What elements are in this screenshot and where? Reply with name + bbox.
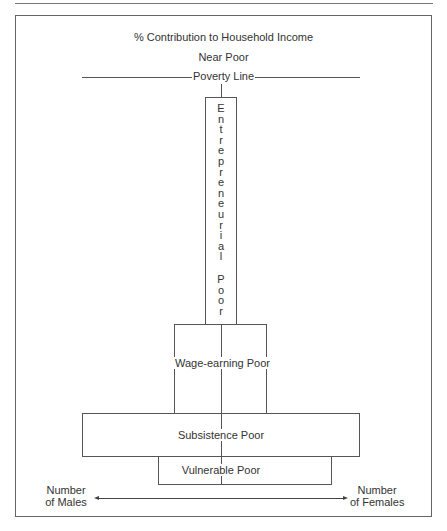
axis-label-females-line2: of Females xyxy=(350,496,404,508)
letter: u xyxy=(218,209,224,220)
vulnerable-poor-label: Vulnerable Poor xyxy=(181,464,261,476)
tier-wage-earning-poor xyxy=(174,324,267,414)
diagram-title: % Contribution to Household Income xyxy=(0,31,447,43)
wage-earning-poor-label: Wage-earning Poor xyxy=(174,357,271,369)
arrow-right-icon xyxy=(343,496,348,500)
entrepreneurial-poor-label: E n t r e p r e n e u r i a l P o o r xyxy=(205,103,237,316)
axis-label-females-line1: Number xyxy=(350,484,404,496)
poverty-line-label-wrap: Poverty Line xyxy=(0,70,447,82)
letter: r xyxy=(219,306,223,317)
vulnerable-poor-label-wrap: Vulnerable Poor xyxy=(158,464,284,476)
subsistence-poor-label-wrap: Subsistence Poor xyxy=(82,429,360,441)
near-poor-label: Near Poor xyxy=(0,51,447,63)
poverty-line-label: Poverty Line xyxy=(192,70,255,82)
letter: P xyxy=(217,274,224,285)
wage-earning-poor-label-wrap: Wage-earning Poor xyxy=(174,357,267,369)
axis-label-females: Number of Females xyxy=(350,484,404,508)
letter: E xyxy=(217,103,224,114)
axis-label-males: Number of Males xyxy=(44,484,88,508)
gender-axis-arrow xyxy=(98,498,344,499)
axis-label-males-line1: Number xyxy=(44,484,88,496)
subsistence-poor-label: Subsistence Poor xyxy=(177,429,265,441)
letter: l xyxy=(220,251,222,262)
axis-label-males-line2: of Males xyxy=(44,496,88,508)
top-rule xyxy=(15,3,433,4)
letter: p xyxy=(218,156,224,167)
